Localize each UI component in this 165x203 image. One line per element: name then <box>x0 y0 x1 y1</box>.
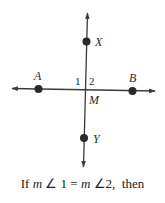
caption: If m ∠ 1 = m ∠2, then <box>0 176 165 192</box>
angle-1-label: 1 <box>75 75 81 87</box>
point-x <box>83 38 91 46</box>
geometry-diagram: A B X Y M 1 2 <box>0 0 165 203</box>
point-a <box>35 85 43 93</box>
label-y: Y <box>93 132 101 146</box>
angle-symbol-2: ∠ <box>90 176 105 191</box>
label-x: X <box>94 35 103 49</box>
caption-m2: m <box>81 176 90 191</box>
angle-symbol-1: ∠ <box>42 176 61 191</box>
point-b <box>129 87 137 95</box>
caption-prefix: If <box>21 176 33 191</box>
label-a: A <box>33 69 42 83</box>
point-y <box>80 134 88 142</box>
angle-2-label: 2 <box>89 75 95 87</box>
label-m: M <box>88 93 100 107</box>
caption-num1: 1 = <box>61 176 81 191</box>
label-b: B <box>129 71 137 85</box>
caption-num2: 2, <box>106 176 116 191</box>
caption-suffix: then <box>115 176 144 191</box>
caption-m1: m <box>33 176 42 191</box>
